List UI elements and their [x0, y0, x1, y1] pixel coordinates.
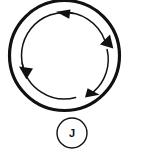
arrowhead-bottom-pointing-right-icon — [85, 88, 100, 97]
diagram-canvas: J — [0, 0, 142, 154]
outer-ring — [10, 1, 120, 111]
arrowhead-top-pointing-left-icon — [56, 10, 71, 19]
arrowhead-left-pointing-down-icon — [19, 66, 33, 79]
source-label-j: J — [69, 127, 75, 139]
inner-arc-bottom-to-right — [93, 49, 108, 92]
arrowhead-right-pointing-up-icon — [100, 35, 113, 49]
source-node: J — [57, 118, 87, 148]
circulating-current-diagram: J — [0, 0, 142, 154]
inner-arrow-ring — [19, 10, 113, 99]
inner-arc-top-to-left — [21, 12, 73, 73]
